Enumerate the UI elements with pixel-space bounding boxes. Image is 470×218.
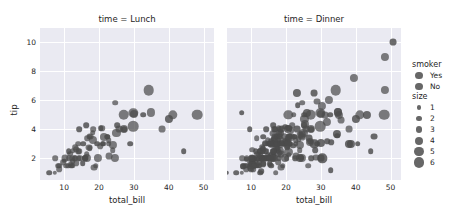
legend-item[interactable]: 3 [412,124,442,135]
data-point [260,162,266,168]
data-point [234,170,240,176]
x-tick-label: 40 [351,183,361,192]
data-point [276,159,282,165]
data-point [295,103,301,109]
data-point [83,122,89,128]
legend-marker-icon [412,105,426,109]
facet-panel-lunch: time = Lunch [40,28,214,180]
gridline-vertical [169,28,170,180]
x-tick-label: 20 [94,183,104,192]
data-point [97,143,103,149]
legend-label: 3 [430,125,435,134]
x-axis-label: total_bill [109,195,145,205]
y-tick-label: 2 [18,154,36,163]
legend-marker-icon [412,126,426,133]
data-point [181,148,187,154]
data-point [260,134,266,140]
data-point [323,118,331,126]
legend-item[interactable]: 5 [412,146,442,157]
panel-title-lunch: time = Lunch [40,14,214,24]
legend-label: 2 [430,114,435,123]
data-point [311,90,318,97]
data-point [338,116,345,123]
data-point [328,139,334,145]
legend-item[interactable]: No [412,81,442,92]
data-point [308,155,314,161]
data-point [127,141,133,147]
y-tick-label: 10 [18,38,36,47]
data-point [273,170,279,176]
data-point [239,110,245,116]
data-point [147,108,155,116]
data-point [122,127,128,133]
x-tick-label: 30 [316,183,326,192]
data-point [306,163,312,169]
data-point [83,154,91,162]
data-point [94,154,102,162]
bottom-strip [0,206,470,218]
legend-label: Yes [430,71,442,80]
legend-item[interactable]: 6 [412,157,442,168]
facet-panel-dinner: time = Dinner [227,28,401,180]
data-point [159,126,166,133]
data-point [256,153,262,159]
data-point [47,170,53,176]
data-point [112,129,120,137]
x-tick-label: 10 [246,183,256,192]
data-point [300,100,306,106]
data-point [331,85,342,96]
data-point [347,140,355,148]
data-point [263,127,269,133]
x-tick-label: 50 [199,183,209,192]
data-point [286,152,292,158]
legend-label: No [430,82,440,91]
data-point [111,154,119,162]
y-tick-label: 6 [18,96,36,105]
data-point [76,127,82,133]
legend-label: 4 [430,136,435,145]
data-point [109,141,117,149]
data-point [128,121,139,132]
legend-item[interactable]: 1 [412,102,442,113]
data-point [254,135,260,141]
data-point [247,127,253,133]
data-point [249,155,255,161]
data-point [249,166,255,172]
data-point [314,98,321,105]
data-point [91,164,98,171]
x-tick-label: 30 [129,183,139,192]
data-point [87,133,94,140]
y-tick-label: 8 [18,67,36,76]
data-point [270,148,276,154]
legend-marker-icon [412,157,426,167]
data-point [192,110,203,121]
data-point [227,171,229,175]
plot-area-dinner [227,28,401,180]
data-point [73,147,79,153]
gridline-horizontal [40,71,214,72]
gridline-vertical [134,28,135,180]
data-point [113,100,119,106]
scatter-plot-figure: time = Lunch time = Dinner 1020304050tot… [0,0,470,218]
plot-area-lunch [40,28,214,180]
data-point [86,144,93,151]
legend-item[interactable]: 4 [412,135,442,146]
x-tick-label: 20 [281,183,291,192]
legend-item[interactable]: Yes [412,70,442,81]
data-point [144,85,155,96]
data-point [276,133,283,140]
gridline-vertical [356,28,357,180]
data-point [333,130,341,138]
data-point [72,155,78,161]
data-point [379,110,390,121]
data-point [380,86,388,94]
gridline-horizontal [227,42,401,43]
data-point [317,138,325,146]
legend-label: 1 [430,103,435,112]
data-point [257,170,263,176]
legend-marker-icon [412,83,426,90]
legend-item[interactable]: 2 [412,113,442,124]
legend-title-size: size [412,92,442,101]
legend-marker-icon [412,137,426,145]
gridline-horizontal [227,71,401,72]
